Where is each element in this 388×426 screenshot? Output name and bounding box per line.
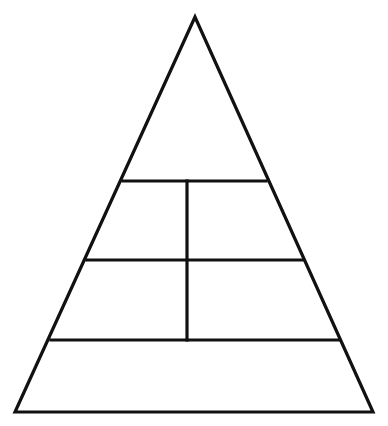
tier-dividers bbox=[51, 181, 339, 340]
pyramid-diagram bbox=[0, 0, 388, 426]
pyramid-svg bbox=[0, 0, 388, 426]
pyramid-outline bbox=[15, 17, 373, 412]
